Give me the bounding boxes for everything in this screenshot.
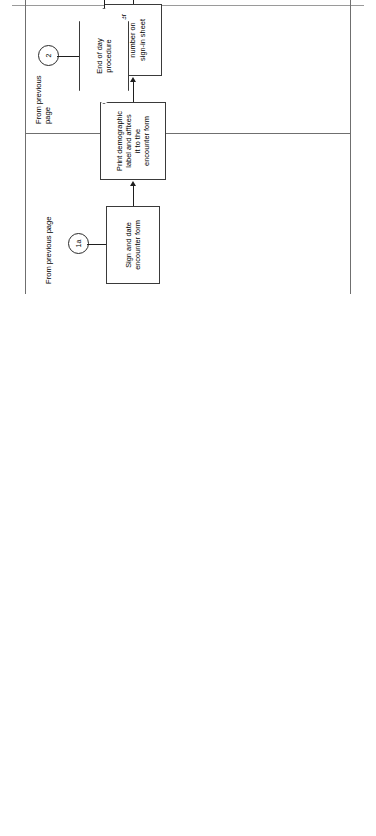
connector-1a[interactable]: 1a xyxy=(68,233,89,254)
link-n2-n3 xyxy=(133,80,135,102)
link-n3-n4 xyxy=(133,0,135,4)
rotated-flowchart-canvas: From previous page 1a Sign and date enco… xyxy=(0,0,376,376)
frame-outer-top xyxy=(25,0,26,294)
scanned-page: From previous page 1a Sign and date enco… xyxy=(0,0,376,836)
link-n1-n2 xyxy=(133,184,135,206)
node-end-of-day-procedure[interactable]: End of day procedure xyxy=(79,8,129,104)
section-2-entry-label: From previous page xyxy=(34,75,53,124)
node-label: Sign and date encounter form xyxy=(124,217,142,273)
section-1-entry-label: From previous page xyxy=(44,216,53,284)
connector-2[interactable]: 2 xyxy=(38,45,59,66)
link-1a-to-n1 xyxy=(87,244,106,245)
link-m1-m2 xyxy=(104,0,106,8)
frame-divider-1 xyxy=(25,133,351,134)
frame-outer-bottom xyxy=(350,0,351,294)
node-label: End of day procedure xyxy=(95,35,113,76)
node-sign-and-date-encounter-form[interactable]: Sign and date encounter form xyxy=(106,206,160,284)
link-2-to-m1 xyxy=(57,56,79,57)
node-print-demographic-label[interactable]: Print demographic label and affixes it t… xyxy=(100,102,166,180)
node-label: Print demographic label and affixes it t… xyxy=(115,108,151,174)
arrow-n2-n3 xyxy=(130,77,136,82)
arrow-n1-n2 xyxy=(130,181,136,186)
